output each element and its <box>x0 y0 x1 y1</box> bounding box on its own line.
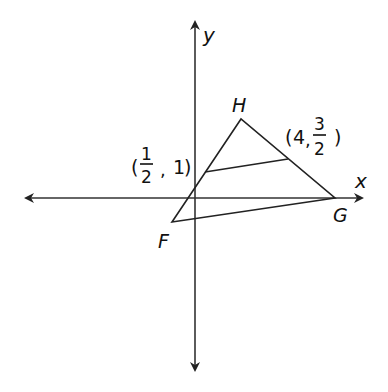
coord-label-left-endpoint: ( 1 2 , 1 ) <box>131 144 191 187</box>
paren-open: ( <box>131 156 138 178</box>
fraction-denominator: 2 <box>141 167 152 187</box>
vertex-label-g: G <box>333 204 348 226</box>
fraction-numerator: 3 <box>314 114 325 134</box>
paren-open: ( <box>285 126 292 148</box>
vertex-label-h: H <box>232 94 246 116</box>
y-axis-label: y <box>202 23 216 47</box>
paren-close: ) <box>184 156 191 178</box>
coord-x: 4 <box>293 126 305 148</box>
midsegment <box>205 159 288 172</box>
coord-label-right-endpoint: ( 4 , 3 2 ) <box>285 114 341 159</box>
fraction-denominator: 2 <box>314 139 325 159</box>
vertex-label-f: F <box>158 230 170 252</box>
separator: , <box>160 159 166 180</box>
x-axis-label: x <box>354 169 367 193</box>
fraction-numerator: 1 <box>141 144 152 164</box>
separator: , <box>305 129 311 150</box>
paren-close: ) <box>334 126 341 148</box>
coordinate-diagram: y x H G F ( 1 2 , 1 ) ( 4 , 3 2 ) <box>0 0 388 392</box>
